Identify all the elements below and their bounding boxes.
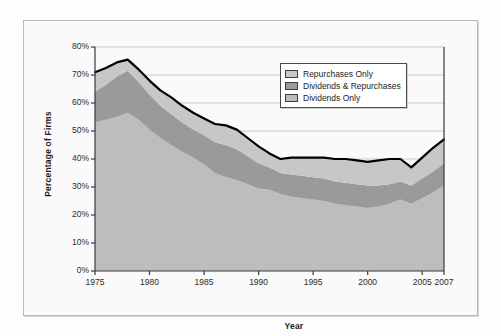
y-axis-title: Percentage of Firms [43,106,53,202]
y-tick-label: 30% [55,181,89,191]
legend-item: Dividends & Repurchases [285,80,401,91]
legend-label: Dividends Only [303,93,360,103]
chart-frame: 0%10%20%30%40%50%60%70%80% 1975198019851… [23,20,478,316]
y-tick-label: 50% [55,125,89,135]
y-tick-label: 40% [55,153,89,163]
y-tick-label: 60% [55,97,89,107]
legend-swatch [285,94,298,102]
x-tick-label: 2000 [348,277,388,287]
chart-figure: 0%10%20%30%40%50%60%70%80% 1975198019851… [0,0,501,336]
x-tick-label: 1985 [184,277,224,287]
x-axis-title: Year [214,321,374,331]
legend-label: Dividends & Repurchases [303,81,401,91]
legend-swatch [285,70,298,78]
y-tick-label: 20% [55,209,89,219]
x-tick-label: 1995 [293,277,333,287]
x-tick-label: 1990 [239,277,279,287]
legend-item: Dividends Only [285,92,401,103]
x-tick-label: 1975 [75,277,115,287]
y-tick-label: 80% [55,41,89,51]
stacked-area-plot [24,21,477,315]
y-tick-label: 0% [55,265,89,275]
chart-legend: Repurchases OnlyDividends & RepurchasesD… [280,63,407,108]
x-tick-marks [95,271,444,275]
y-tick-label: 70% [55,69,89,79]
legend-item: Repurchases Only [285,68,401,79]
legend-label: Repurchases Only [303,69,373,79]
legend-swatch [285,82,298,90]
y-tick-label: 10% [55,237,89,247]
x-tick-label: 1980 [130,277,170,287]
x-tick-label: 2007 [424,277,464,287]
